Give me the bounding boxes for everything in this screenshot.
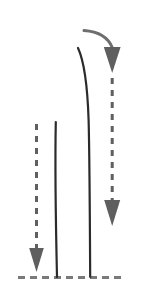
- diagram-canvas: [0, 0, 153, 306]
- figure-container: [0, 0, 153, 306]
- figure-background: [0, 0, 153, 306]
